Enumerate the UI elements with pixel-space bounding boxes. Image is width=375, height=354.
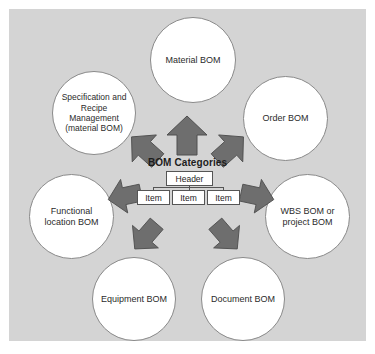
bom-categories-title: BOM Categories [0, 157, 375, 168]
node-wbs-bom-label: WBS BOM or project BOM [266, 206, 349, 228]
tree-node-item-1-label: Item [145, 193, 162, 203]
node-wbs-bom: WBS BOM or project BOM [265, 174, 350, 259]
node-specification-bom: Specification and Recipe Management (mat… [52, 71, 136, 155]
diagram-canvas: Material BOM Specification and Recipe Ma… [0, 0, 375, 354]
tree-node-item-1: Item [137, 190, 170, 205]
tree-node-header: Header [166, 171, 213, 186]
node-specification-bom-label: Specification and Recipe Management (mat… [53, 92, 135, 133]
node-equipment-bom: Equipment BOM [92, 257, 176, 341]
node-material-bom: Material BOM [150, 17, 236, 103]
tree-node-item-2: Item [172, 190, 205, 205]
tree-node-item-3-label: Item [215, 193, 232, 203]
node-document-bom: Document BOM [201, 257, 285, 341]
bom-structure-tree: Header Item Item Item [136, 170, 240, 206]
node-functional-location-bom-label: Functional location BOM [30, 206, 113, 228]
node-order-bom: Order BOM [243, 76, 328, 161]
node-material-bom-label: Material BOM [159, 55, 226, 66]
arrow-right-icon [239, 178, 275, 214]
arrow-down-left-icon [128, 218, 164, 254]
node-equipment-bom-label: Equipment BOM [95, 294, 173, 305]
node-functional-location-bom: Functional location BOM [29, 174, 114, 259]
tree-node-header-label: Header [176, 174, 204, 184]
node-order-bom-label: Order BOM [256, 113, 314, 124]
arrow-down-right-icon [208, 218, 244, 254]
node-document-bom-label: Document BOM [205, 294, 281, 305]
tree-node-item-2-label: Item [180, 193, 197, 203]
tree-node-item-3: Item [207, 190, 240, 205]
arrow-up-icon [166, 116, 208, 156]
